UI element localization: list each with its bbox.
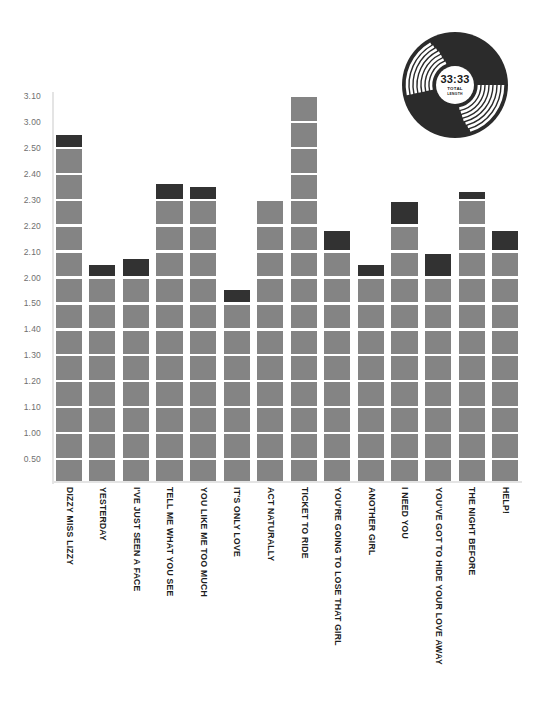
bar[interactable]	[257, 200, 283, 481]
bar-grid-separator	[89, 406, 115, 408]
bar-grid-separator	[156, 458, 182, 460]
bar-grid-separator	[156, 354, 182, 356]
x-tick-label: I NEED YOU	[400, 487, 410, 539]
bar-grid-separator	[425, 302, 451, 304]
x-tick-label: YOU'VE GOT TO HIDE YOUR LOVE AWAY	[434, 487, 444, 665]
bar-grid-separator	[190, 328, 216, 330]
bar-grid-separator	[425, 354, 451, 356]
bar[interactable]	[492, 231, 518, 481]
bar-grid-separator	[492, 276, 518, 278]
bar-grid-separator	[324, 276, 350, 278]
bar-grid-separator	[459, 432, 485, 434]
bar-grid-separator	[492, 406, 518, 408]
bar-grid-separator	[291, 458, 317, 460]
bar[interactable]	[224, 290, 250, 481]
bar[interactable]	[459, 192, 485, 481]
y-tick-label: 2.30	[24, 195, 41, 205]
bar-grid-separator	[459, 406, 485, 408]
bar-grid-separator	[425, 432, 451, 434]
y-tick-label: 1.30	[24, 350, 41, 360]
x-tick-label: YOU'RE GOING TO LOSE THAT GIRL	[333, 487, 343, 646]
bar[interactable]	[391, 202, 417, 481]
bar-grid-separator	[190, 302, 216, 304]
bar-grid-separator	[492, 328, 518, 330]
bar-grid-separator	[56, 276, 82, 278]
bar-grid-separator	[257, 302, 283, 304]
bar[interactable]	[123, 259, 149, 481]
bar-grid-separator	[291, 302, 317, 304]
bar-grid-separator	[492, 302, 518, 304]
bar-grid-separator	[291, 224, 317, 226]
x-tick-label: THE NIGHT BEFORE	[467, 487, 477, 576]
bar-grid-separator	[291, 173, 317, 175]
bar-grid-separator	[492, 458, 518, 460]
bar-grid-separator	[190, 354, 216, 356]
y-tick-label: 3.10	[24, 91, 41, 101]
bar-stack	[425, 254, 451, 481]
bar-grid-separator	[492, 354, 518, 356]
bar-stack	[459, 192, 485, 481]
bar[interactable]	[156, 184, 182, 481]
bar-grid-separator	[89, 432, 115, 434]
bar-grid-separator	[257, 200, 283, 201]
bar-grid-separator	[391, 432, 417, 434]
bar-grid-separator	[425, 328, 451, 330]
bar[interactable]	[190, 187, 216, 481]
bar-grid-separator	[257, 380, 283, 382]
bar-grid-separator	[324, 250, 350, 252]
bar-grid-separator	[224, 432, 250, 434]
bar-body	[123, 259, 149, 481]
bar-grid-separator	[224, 328, 250, 330]
x-tick-label: HELP!	[501, 487, 511, 514]
bar-grid-separator	[123, 380, 149, 382]
bar[interactable]	[358, 265, 384, 481]
bar[interactable]	[291, 96, 317, 481]
bar-grid-separator	[257, 458, 283, 460]
bar-grid-separator	[492, 380, 518, 382]
bar-grid-separator	[257, 406, 283, 408]
bar-grid-separator	[324, 458, 350, 460]
bar-grid-separator	[291, 328, 317, 330]
bar[interactable]	[89, 265, 115, 481]
bar-grid-separator	[358, 276, 384, 278]
bar-grid-separator	[257, 250, 283, 252]
bar-stack	[324, 231, 350, 481]
bar-grid-separator	[190, 199, 216, 201]
bar-grid-separator	[190, 276, 216, 278]
bar[interactable]	[56, 135, 82, 481]
bar-body	[190, 187, 216, 481]
x-tick-label: TICKET TO RIDE	[300, 487, 310, 559]
bar[interactable]	[425, 254, 451, 481]
bar-grid-separator	[291, 276, 317, 278]
y-tick-label: 1.50	[24, 298, 41, 308]
bar-grid-separator	[190, 406, 216, 408]
plot-area	[52, 96, 522, 481]
x-tick-label: ACT NATURALLY	[266, 487, 276, 561]
bar[interactable]	[324, 231, 350, 481]
bar-body	[257, 200, 283, 481]
bar-grid-separator	[89, 328, 115, 330]
x-axis: DIZZY MISS LIZZYYESTERDAYI'VE JUST SEEN …	[52, 487, 522, 717]
bar-grid-separator	[56, 354, 82, 356]
bar-stack	[89, 265, 115, 481]
bar-grid-separator	[123, 302, 149, 304]
bar-grid-separator	[459, 250, 485, 252]
bar-grid-separator	[358, 406, 384, 408]
bar-grid-separator	[492, 432, 518, 434]
bar-grid-separator	[56, 380, 82, 382]
bar-cap-segment	[391, 202, 417, 225]
bar-grid-separator	[123, 354, 149, 356]
bar-grid-separator	[190, 458, 216, 460]
y-tick-label: 1.40	[24, 324, 41, 334]
bar-grid-separator	[56, 302, 82, 304]
bar-grid-separator	[459, 380, 485, 382]
bar-grid-separator	[391, 406, 417, 408]
bar-grid-separator	[257, 328, 283, 330]
bar-body	[89, 265, 115, 481]
bar-grid-separator	[324, 302, 350, 304]
y-tick-label: 3.00	[24, 117, 41, 127]
bar-stack	[257, 200, 283, 481]
bar-grid-separator	[123, 458, 149, 460]
bar-stack	[190, 187, 216, 481]
bar-grid-separator	[89, 302, 115, 304]
